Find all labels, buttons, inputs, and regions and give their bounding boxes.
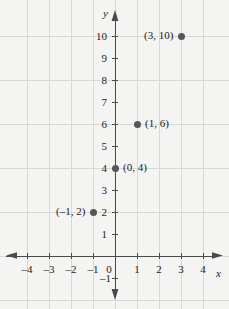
- y-axis-label: y: [103, 8, 108, 19]
- x-axis-label: x: [216, 268, 221, 279]
- axis-names-layer: x y: [0, 0, 229, 309]
- coordinate-plane-chart: –4–3–2–101234–112345678910 (–1, 2)(0, 4)…: [0, 0, 229, 309]
